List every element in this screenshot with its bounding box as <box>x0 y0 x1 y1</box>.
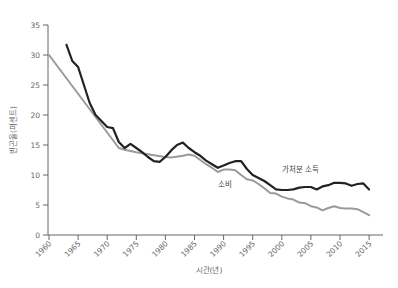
y-axis-ticks: 05101520253035 <box>30 21 48 240</box>
disposable-income-line <box>67 45 370 190</box>
x-tick-label: 1960 <box>34 239 54 259</box>
y-tick-label: 30 <box>30 51 40 60</box>
y-axis-title: 빈곤율(퍼센트) <box>8 106 18 154</box>
y-tick-label: 5 <box>35 201 40 210</box>
x-tick-label: 2010 <box>325 239 345 259</box>
consumption-line <box>49 55 369 215</box>
x-tick-label: 1970 <box>92 239 112 259</box>
y-tick-label: 20 <box>30 111 40 120</box>
consumption-label: 소비 <box>218 180 232 189</box>
x-tick-label: 1995 <box>237 239 257 259</box>
y-tick-label: 25 <box>30 81 40 90</box>
x-tick-label: 2000 <box>266 239 286 259</box>
disposable-income-label: 가처분 소득 <box>282 165 319 174</box>
y-tick-label: 0 <box>35 231 40 240</box>
x-axis-title: 시간(년) <box>196 265 223 275</box>
x-tick-label: 2005 <box>295 239 315 259</box>
x-tick-label: 1965 <box>63 239 83 259</box>
x-tick-label: 1975 <box>121 239 141 259</box>
poverty-rate-line-chart: 05101520253035 1960196519701975198019851… <box>0 0 398 288</box>
y-tick-label: 35 <box>30 21 40 30</box>
y-tick-label: 10 <box>30 171 40 180</box>
axes <box>48 25 383 235</box>
series-layer: 소비가처분 소득 <box>49 45 369 215</box>
x-tick-label: 1985 <box>179 239 199 259</box>
x-axis-ticks: 1960196519701975198019851990199520002005… <box>34 235 374 259</box>
x-tick-label: 2015 <box>354 239 374 259</box>
y-tick-label: 15 <box>30 141 40 150</box>
x-tick-label: 1980 <box>150 239 170 259</box>
x-tick-label: 1990 <box>208 239 228 259</box>
